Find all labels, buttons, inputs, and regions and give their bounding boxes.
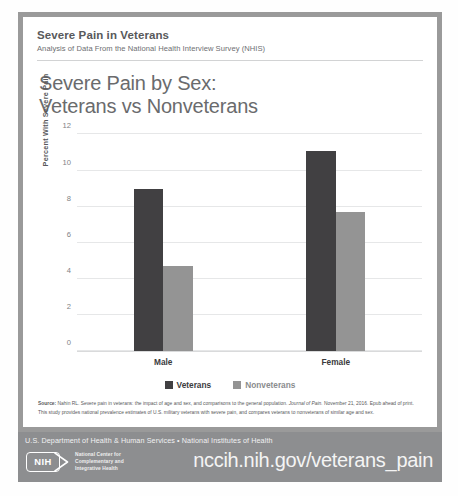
bar-male-veterans xyxy=(134,189,164,352)
legend-label: Nonveterans xyxy=(245,380,295,390)
header-subtitle: Analysis of Data From the National Healt… xyxy=(37,44,423,53)
y-gridline xyxy=(77,314,422,315)
center-name-line1: National Center for xyxy=(75,451,124,458)
y-axis-tick-label: 8 xyxy=(67,193,71,202)
legend-label: Veterans xyxy=(177,380,212,390)
page-title-line2: Veterans vs Nonveterans xyxy=(39,95,258,117)
y-gridline xyxy=(77,350,422,351)
bar-male-nonveterans xyxy=(163,266,193,351)
source-line1-b: November 21, 2016. Epub ahead of print. xyxy=(323,401,414,406)
source-citation: Source: Nahin RL. Severe pain in veteran… xyxy=(37,399,423,417)
header-divider xyxy=(37,60,423,61)
nih-logo-group: NIH National Center for Complementary an… xyxy=(26,451,124,472)
x-axis-tick-label: Male xyxy=(154,357,172,367)
header-title: Severe Pain in Veterans xyxy=(37,29,423,41)
source-line-2: This study provides national prevalence … xyxy=(38,408,422,417)
y-gridline xyxy=(77,170,422,171)
y-gridline xyxy=(77,278,422,279)
infographic-card: Severe Pain in Veterans Analysis of Data… xyxy=(18,12,442,432)
bar-chart: Percent With Severe Pain 024681012MaleFe… xyxy=(37,128,432,376)
bar-female-nonveterans xyxy=(336,212,366,351)
y-axis-label: Percent With Severe Pain xyxy=(41,60,50,180)
source-line1-a: Nahin RL. Severe pain in veterans: the i… xyxy=(56,401,288,406)
legend-item-nonveterans: Nonveterans xyxy=(233,380,295,390)
y-gridline xyxy=(77,133,422,134)
source-line-1: Source: Nahin RL. Severe pain in veteran… xyxy=(38,399,422,408)
source-journal: Journal of Pain. xyxy=(289,401,323,406)
footer-bar: U.S. Department of Health & Human Servic… xyxy=(18,432,442,482)
nih-logo-icon: NIH xyxy=(26,452,70,472)
header-block: Severe Pain in Veterans Analysis of Data… xyxy=(37,29,423,61)
page-title: Severe Pain by Sex: Veterans vs Nonveter… xyxy=(39,72,423,118)
y-axis-tick-label: 12 xyxy=(63,121,71,130)
legend-swatch xyxy=(165,381,173,389)
center-name-line3: Integrative Health xyxy=(75,465,124,472)
chart-plot-area: 024681012MaleFemale xyxy=(77,134,422,352)
footer-agency-line: U.S. Department of Health & Human Servic… xyxy=(25,436,273,445)
x-axis-tick-label: Female xyxy=(321,357,350,367)
center-name: National Center for Complementary and In… xyxy=(75,451,124,472)
bar-female-veterans xyxy=(306,151,336,352)
page-title-line1: Severe Pain by Sex: xyxy=(39,72,216,94)
chart-legend: VeteransNonveterans xyxy=(37,380,423,390)
chevron-right-icon xyxy=(54,452,70,472)
y-gridline xyxy=(77,206,422,207)
center-name-line2: Complementary and xyxy=(75,458,124,465)
legend-swatch xyxy=(233,381,241,389)
y-axis-tick-label: 0 xyxy=(67,338,71,347)
infographic-page: Severe Pain in Veterans Analysis of Data… xyxy=(0,0,458,496)
legend-item-veterans: Veterans xyxy=(165,380,212,390)
y-axis-tick-label: 2 xyxy=(67,302,71,311)
y-axis-tick-label: 10 xyxy=(63,157,71,166)
footer-url: nccih.nih.gov/veterans_pain xyxy=(193,449,433,472)
y-gridline xyxy=(77,242,422,243)
source-label: Source: xyxy=(38,401,56,406)
y-axis-tick-label: 6 xyxy=(67,229,71,238)
y-axis-tick-label: 4 xyxy=(67,266,71,275)
